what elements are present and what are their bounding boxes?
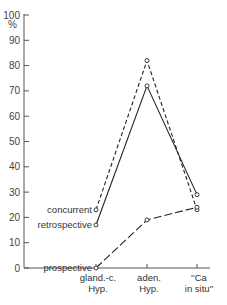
- series-line-concurrent: [96, 61, 197, 210]
- data-point-retrospective: [94, 223, 98, 227]
- y-tick-label: 80: [9, 60, 21, 71]
- y-tick-label: 30: [9, 187, 21, 198]
- data-point-concurrent: [145, 59, 149, 63]
- y-tick-label: 90: [9, 35, 21, 46]
- x-category-label: in situ'': [185, 283, 214, 294]
- x-category-label: gland.-c.: [80, 272, 116, 283]
- series-group: concurrentretrospectiveprospective: [38, 59, 199, 273]
- y-unit-label: %: [8, 19, 17, 30]
- data-point-prospective: [145, 218, 149, 222]
- y-tick-label: 10: [9, 237, 21, 248]
- y-tick-label: 0: [14, 263, 20, 274]
- y-tick-label: 50: [9, 136, 21, 147]
- y-tick-label: 70: [9, 85, 21, 96]
- series-line-prospective: [96, 207, 197, 268]
- series-label-concurrent: concurrent: [47, 204, 92, 215]
- series-line-retrospective: [96, 86, 197, 225]
- line-chart: 0102030405060708090100 % gland.-c.Hyp.ad…: [0, 0, 227, 305]
- series-label-retrospective: retrospective: [38, 219, 92, 230]
- data-point-prospective: [94, 266, 98, 270]
- y-tick-label: 60: [9, 111, 21, 122]
- y-ticks: 0102030405060708090100: [3, 10, 29, 274]
- data-point-prospective: [195, 205, 199, 209]
- y-tick-label: 40: [9, 161, 21, 172]
- x-category-label: Hyp.: [88, 283, 108, 294]
- x-category-label: Hyp.: [139, 283, 159, 294]
- data-point-retrospective: [145, 84, 149, 88]
- x-category-label: aden.: [137, 272, 161, 283]
- y-tick-label: 20: [9, 212, 21, 223]
- data-point-concurrent: [94, 208, 98, 212]
- series-label-prospective: prospective: [43, 262, 92, 273]
- data-point-retrospective: [195, 193, 199, 197]
- x-category-label: ''Ca: [191, 272, 207, 283]
